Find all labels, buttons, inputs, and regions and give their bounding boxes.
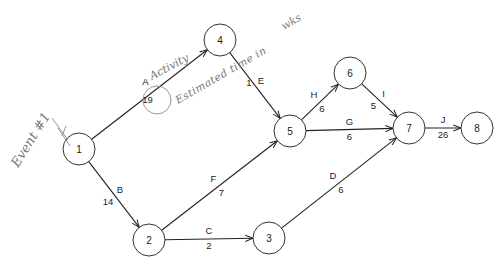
node-label: 6	[347, 68, 353, 79]
annotation-event: Event #1	[7, 110, 53, 171]
edge-activity-label: H	[311, 89, 318, 100]
edge-duration-label: 2	[206, 240, 211, 251]
node-1: 1	[63, 133, 95, 165]
edge-activity-label: F	[211, 173, 217, 184]
edge-activity-label: J	[441, 114, 446, 125]
annotation-check-mark-icon	[52, 118, 70, 146]
node-label: 1	[76, 144, 82, 155]
edge-activity-label: C	[206, 225, 213, 236]
node-label: 2	[146, 235, 152, 246]
edge-activity-label: A	[142, 76, 149, 87]
edge-duration-label: 7	[219, 187, 224, 198]
node-label: 8	[474, 123, 480, 134]
edge-duration-label: 5	[371, 100, 376, 111]
node-5: 5	[274, 115, 306, 147]
edge-f	[162, 141, 278, 230]
node-7: 7	[393, 112, 425, 144]
node-label: 4	[217, 35, 223, 46]
edge-h	[302, 84, 339, 120]
edge-duration-label: 6	[338, 184, 343, 195]
node-3: 3	[253, 222, 285, 254]
node-6: 6	[334, 57, 366, 89]
node-label: 7	[406, 123, 412, 134]
edge-duration-label: 6	[347, 131, 352, 142]
edge-duration-label: 26	[438, 129, 449, 140]
network-diagram: A19B14C2D6E1F7G6H6I5J26 12345678 Event #…	[0, 0, 496, 260]
edge-activity-label: D	[330, 170, 337, 181]
edge-i	[362, 84, 398, 117]
edge-activity-label: E	[258, 75, 264, 86]
node-2: 2	[133, 224, 165, 256]
edge-activity-label: G	[346, 116, 353, 127]
nodes-layer: 12345678	[63, 24, 493, 256]
node-label: 3	[266, 233, 272, 244]
node-4: 4	[204, 24, 236, 56]
annotation-units: wks	[279, 11, 303, 32]
edge-b	[89, 162, 139, 228]
edge-duration-label: 6	[319, 103, 324, 114]
node-8: 8	[461, 112, 493, 144]
edge-duration-label: 1	[246, 77, 251, 88]
edge-activity-label: I	[382, 88, 385, 99]
edge-duration-label: 14	[103, 196, 114, 207]
edge-d	[282, 138, 397, 228]
edge-activity-label: B	[117, 184, 123, 195]
node-label: 5	[287, 126, 293, 137]
